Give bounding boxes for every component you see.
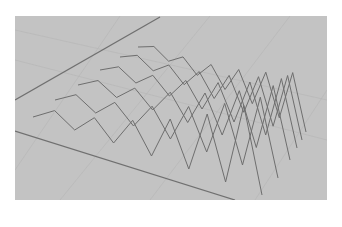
3d-zigzag-render (0, 0, 342, 227)
viewport-panel (15, 16, 327, 200)
